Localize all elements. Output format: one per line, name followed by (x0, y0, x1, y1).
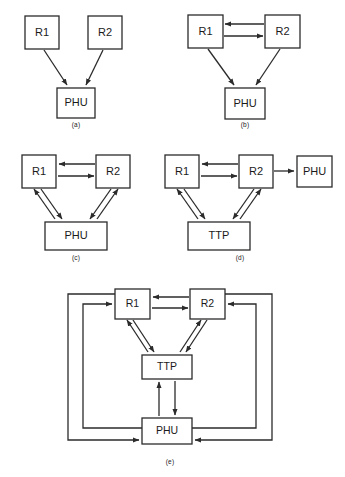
figure-container: R1 R2 PHU (a) R1 R2 PHU (b) (0, 0, 345, 477)
panel-a: R1 R2 PHU (0, 0, 170, 140)
panel-d: R1 R2 TTP PHU (152, 142, 342, 272)
node-label: R1 (32, 165, 46, 177)
edge-R1-PHU (208, 49, 234, 85)
node-label: R2 (201, 297, 215, 309)
edge-TTP-to-R2 (180, 320, 201, 352)
node-R1: R1 (165, 155, 199, 188)
node-label: TTP (157, 360, 177, 372)
edge-PHU-to-R1-outer-left (83, 304, 142, 428)
node-label: PHU (64, 229, 87, 241)
node-label: R1 (175, 165, 189, 177)
node-label: R1 (198, 25, 212, 37)
panel-d-caption: (d) (222, 254, 258, 261)
node-R1: R1 (188, 15, 223, 48)
node-label: TTP (209, 229, 230, 241)
node-PHU: PHU (57, 88, 95, 118)
edge-R2-to-TTP (186, 320, 207, 352)
node-R2: R2 (96, 155, 130, 188)
edge-R2-PHU (86, 50, 103, 85)
node-TTP: TTP (142, 355, 192, 379)
node-R2: R2 (190, 289, 225, 319)
node-PHU: PHU (297, 156, 332, 187)
node-R1: R1 (22, 155, 56, 188)
node-label: R2 (275, 25, 289, 37)
node-label: PHU (64, 96, 87, 108)
panel-c-caption: (c) (58, 254, 94, 261)
node-PHU: PHU (142, 418, 192, 444)
node-label: PHU (303, 165, 326, 177)
node-label: R2 (98, 26, 112, 38)
panel-a-caption: (a) (58, 121, 94, 128)
edge-R2-PHU (256, 49, 280, 85)
node-R2: R2 (88, 16, 122, 49)
edge-R1-PHU (44, 50, 67, 85)
node-label: R1 (126, 297, 140, 309)
edge-PHU-to-R2-outer-right (192, 304, 256, 428)
node-R1: R1 (25, 16, 59, 49)
node-PHU: PHU (225, 88, 265, 119)
node-label: PHU (156, 424, 178, 436)
node-R2: R2 (239, 155, 273, 188)
edge-R1-to-TTP (133, 320, 154, 352)
edge-TTP-to-R1 (127, 320, 148, 352)
node-R1: R1 (115, 289, 150, 319)
panel-b: R1 R2 PHU (170, 0, 345, 140)
panel-c: R1 R2 PHU (0, 142, 160, 272)
panel-b-caption: (b) (227, 121, 263, 128)
node-label: PHU (233, 97, 256, 109)
node-TTP: TTP (188, 222, 250, 250)
node-label: R1 (35, 26, 49, 38)
panel-e: R1 R2 TTP PHU (55, 280, 295, 460)
node-label: R2 (106, 165, 120, 177)
node-label: R2 (249, 165, 263, 177)
panel-e-caption: (e) (152, 458, 188, 465)
node-R2: R2 (265, 15, 300, 48)
node-PHU: PHU (45, 222, 107, 250)
